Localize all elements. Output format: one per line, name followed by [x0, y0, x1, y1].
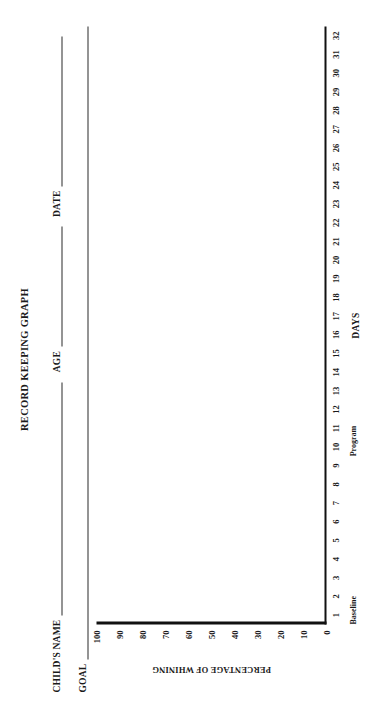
x-tick-label: 17: [330, 311, 340, 320]
x-axis-tick-labels: 1234567891011121314151617181920212223242…: [330, 26, 344, 624]
x-tick-label: 1: [330, 613, 340, 617]
x-tick-label: 4: [330, 556, 340, 560]
x-tick-label: 27: [330, 125, 340, 134]
x-tick-label: 2: [330, 594, 340, 598]
y-tick-label: 70: [160, 630, 170, 656]
x-tick-label: 26: [330, 143, 340, 152]
x-tick-label: 23: [330, 199, 340, 208]
x-tick-label: 16: [330, 330, 340, 339]
x-tick-label: 20: [330, 255, 340, 264]
goal-field-row: GOAL: [72, 26, 88, 692]
chart-plot-area: [96, 26, 326, 624]
x-tick-label: 10: [330, 442, 340, 451]
field-input-age[interactable]: [50, 227, 62, 347]
record-keeping-graph-page: RECORD KEEPING GRAPH CHILD'S NAME AGE DA…: [0, 0, 383, 718]
y-axis-title: PERCENTAGE OF WHINING: [96, 662, 326, 676]
x-tick-label: 8: [330, 482, 340, 486]
x-tick-label: 31: [330, 50, 340, 59]
x-tick-label: 30: [330, 68, 340, 77]
field-input-date[interactable]: [50, 36, 62, 186]
y-tick-label: 20: [275, 630, 285, 656]
identification-fields: CHILD'S NAME AGE DATE: [46, 26, 62, 692]
y-tick-label: 40: [229, 630, 239, 656]
field-input-childs-name[interactable]: [50, 382, 62, 615]
field-label-childs-name: CHILD'S NAME: [51, 615, 62, 692]
x-tick-label: 32: [330, 31, 340, 40]
field-input-goal[interactable]: [76, 26, 88, 659]
x-tick-label: 5: [330, 538, 340, 542]
field-label-goal: GOAL: [77, 659, 88, 692]
x-tick-label: 3: [330, 575, 340, 579]
page-title: RECORD KEEPING GRAPH: [18, 0, 29, 718]
x-tick-label: 7: [330, 500, 340, 504]
x-tick-label: 9: [330, 463, 340, 467]
y-tick-label: 50: [206, 630, 216, 656]
field-label-age: AGE: [51, 347, 62, 372]
x-tick-label: 15: [330, 349, 340, 358]
y-tick-label: 0: [321, 630, 331, 656]
field-label-date: DATE: [51, 186, 62, 217]
x-tick-label: 22: [330, 218, 340, 227]
x-axis-line: [324, 26, 326, 624]
x-tick-label: 12: [330, 405, 340, 414]
x-tick-label: 13: [330, 386, 340, 395]
y-axis-line: [96, 622, 326, 625]
x-tick-label: 6: [330, 519, 340, 523]
x-tick-label: 14: [330, 367, 340, 376]
y-tick-label: 100: [91, 630, 101, 656]
x-tick-label: 21: [330, 237, 340, 246]
y-tick-label: 10: [298, 630, 308, 656]
x-tick-label: 25: [330, 162, 340, 171]
form-sheet: RECORD KEEPING GRAPH CHILD'S NAME AGE DA…: [0, 0, 383, 718]
x-tick-label: 18: [330, 293, 340, 302]
x-tick-label: 24: [330, 181, 340, 190]
x-axis-title: DAYS: [350, 26, 360, 624]
y-tick-label: 80: [137, 630, 147, 656]
x-tick-label: 11: [330, 424, 340, 432]
x-tick-label: 29: [330, 87, 340, 96]
y-tick-label: 60: [183, 630, 193, 656]
y-tick-label: 90: [114, 630, 124, 656]
y-tick-label: 30: [252, 630, 262, 656]
x-tick-label: 19: [330, 274, 340, 283]
x-tick-label: 28: [330, 106, 340, 115]
